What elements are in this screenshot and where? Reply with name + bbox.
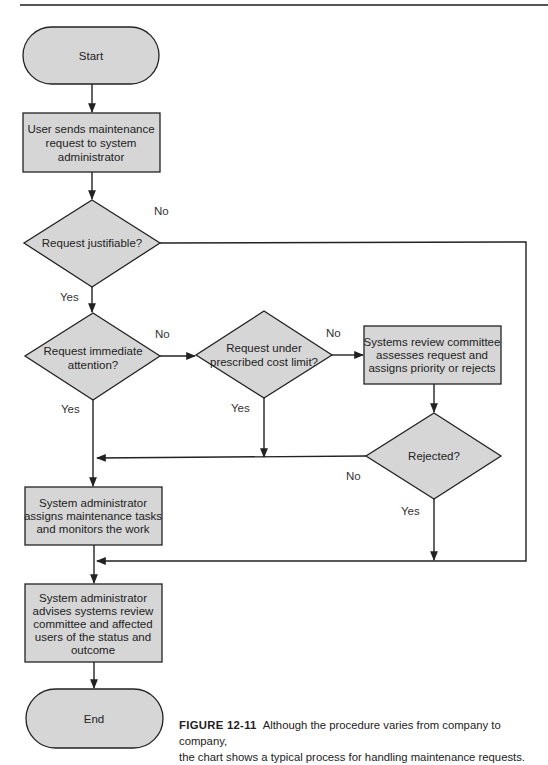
node-assigns-line1: System administrator [39, 497, 147, 509]
label-rejected-yes: Yes [401, 505, 420, 517]
node-advises-line3: committee and affected [33, 618, 152, 630]
node-end: End [26, 689, 163, 748]
node-immediate-line2: attention? [68, 359, 119, 371]
node-user-sends-line2: request to system [46, 137, 137, 149]
node-assigns-line3: and monitors the work [36, 523, 149, 535]
caption-line2: the chart shows a typical process for ha… [179, 751, 525, 763]
node-start-label: Start [79, 50, 104, 62]
node-advises-line4: users of the status and [35, 631, 151, 643]
node-advises-line1: System administrator [39, 592, 147, 604]
node-start: Start [23, 27, 159, 84]
label-immediate-no: No [155, 328, 170, 340]
node-assigns: System administrator assigns maintenance… [24, 487, 162, 545]
node-committee-line3: assigns priority or rejects [368, 362, 495, 374]
node-immediate-line1: Request immediate [43, 345, 142, 357]
node-committee: Systems review committee assesses reques… [364, 326, 501, 384]
label-cost-no: No [326, 327, 341, 339]
figure-number: FIGURE 12-11 [179, 719, 257, 731]
node-advises-line5: outcome [71, 644, 115, 656]
node-cost-limit-line2: prescribed cost limit? [210, 356, 318, 368]
node-assigns-line2: assigns maintenance tasks [24, 510, 162, 522]
node-immediate: Request immediate attention? [25, 313, 160, 400]
label-rejected-no: No [346, 470, 361, 482]
node-committee-line1: Systems review committee [364, 336, 501, 348]
node-advises: System administrator advises systems rev… [25, 584, 162, 662]
node-cost-limit: Request under prescribed cost limit? [196, 311, 332, 398]
node-justifiable: Request justifiable? [24, 200, 160, 287]
node-rejected: Rejected? [366, 413, 501, 499]
label-justifiable-yes: Yes [60, 291, 79, 303]
node-justifiable-label: Request justifiable? [42, 237, 142, 249]
label-immediate-yes: Yes [61, 403, 80, 415]
figure-caption: FIGURE 12-11Although the procedure varie… [179, 717, 547, 765]
label-justifiable-no: No [154, 205, 169, 217]
node-user-sends-line1: User sends maintenance [27, 123, 154, 135]
node-committee-line2: assesses request and [376, 349, 488, 361]
node-advises-line2: advises systems review [33, 605, 154, 617]
node-cost-limit-line1: Request under [226, 342, 302, 354]
node-end-label: End [84, 713, 104, 725]
edge-rejected-no [97, 456, 366, 458]
label-cost-yes: Yes [231, 402, 250, 414]
node-user-sends-line3: administrator [58, 151, 125, 163]
node-user-sends: User sends maintenance request to system… [23, 113, 160, 172]
node-rejected-label: Rejected? [408, 450, 460, 462]
